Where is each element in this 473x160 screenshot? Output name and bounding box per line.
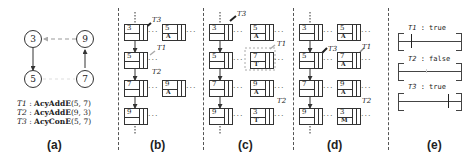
ellipsis: ··· xyxy=(323,27,334,36)
panel-label-d: (d) xyxy=(327,138,342,152)
vertex-cell: 3 xyxy=(124,24,148,41)
ellipsis: ··· xyxy=(323,111,334,120)
ellipsis: ··· xyxy=(323,55,334,64)
interval-t3 xyxy=(398,93,462,109)
vertex-cell: 5 xyxy=(124,52,148,69)
thread-label-t1: T1 xyxy=(157,44,166,52)
legend-line-t2: T2 : AcyAddE(9, 3) xyxy=(17,108,91,117)
graph-node-3: 3 xyxy=(24,30,42,48)
legend-line-t1: T1 : AcyAddE(5, 7) xyxy=(17,99,91,108)
legend-args: (9, 3) xyxy=(71,108,91,117)
vertex-cell: 9 xyxy=(299,108,323,125)
ellipsis: ··· xyxy=(233,111,244,120)
legend-sep: : xyxy=(29,117,32,126)
panel-label-a: (a) xyxy=(47,138,62,152)
graph-node-9: 9 xyxy=(76,30,94,48)
vertex-cell: 9 xyxy=(209,108,233,125)
ellipsis: ··· xyxy=(148,111,159,120)
ellipsis: ··· xyxy=(361,55,372,64)
graph-node-7: 7 xyxy=(76,70,94,88)
edge-cell: 7A xyxy=(337,52,361,69)
legend-op: AcyConE xyxy=(34,117,71,126)
interval-t2 xyxy=(398,63,462,79)
ellipsis: ··· xyxy=(323,83,334,92)
ellipsis: ··· xyxy=(274,27,285,36)
thread-label-t1: T1 xyxy=(362,43,371,51)
legend-line-t3: T3 : AcyConE(5, 7) xyxy=(17,117,91,126)
edge-cell: 5A xyxy=(337,24,361,41)
legend-sep: : xyxy=(29,99,32,108)
legend-op: AcyAddE xyxy=(34,99,71,108)
ellipsis: ··· xyxy=(233,27,244,36)
legend-args: (5, 7) xyxy=(71,99,91,108)
panel-label-e: (e) xyxy=(427,138,442,152)
ellipsis: ··· xyxy=(148,55,159,64)
edge-cell: 7T xyxy=(250,52,274,69)
ellipsis: ··· xyxy=(361,83,372,92)
ellipsis: ··· xyxy=(148,83,159,92)
edge-cell: 9A xyxy=(250,80,274,97)
ellipsis: ··· xyxy=(274,83,285,92)
thread-label-t2: T2 xyxy=(152,68,161,76)
panel-label-c: (c) xyxy=(238,138,253,152)
ellipsis: ··· xyxy=(233,83,244,92)
edge-cell: 5A xyxy=(162,24,186,41)
vertex-cell: 7 xyxy=(209,80,233,97)
legend-thread: T3 xyxy=(17,117,27,126)
edge-cell: 3T xyxy=(250,108,274,125)
legend-thread: T1 xyxy=(17,99,27,108)
legend-sep: : xyxy=(29,108,32,117)
interval-label-t2: T2 : false xyxy=(408,55,450,63)
legend-op: AcyAddE xyxy=(34,108,71,117)
ellipsis: ··· xyxy=(274,111,285,120)
vertex-cell: 7 xyxy=(124,80,148,97)
thread-label-t2: T2 xyxy=(362,97,371,105)
interval-label-t1: T1 : true xyxy=(408,24,446,32)
edge-cell: 5A xyxy=(250,24,274,41)
vertex-cell: 7 xyxy=(299,80,323,97)
ellipsis: ··· xyxy=(274,55,285,64)
interval-label-t3: T3 : true xyxy=(408,83,446,91)
thread-label-t3: T3 xyxy=(237,10,246,18)
panel-label-b: (b) xyxy=(150,138,165,152)
ellipsis: ··· xyxy=(361,111,372,120)
thread-label-t3: T3 xyxy=(328,45,337,53)
vertex-cell: 9 xyxy=(124,108,148,125)
edge-cell: 3M xyxy=(337,108,361,125)
separator xyxy=(388,8,389,150)
legend-thread: T2 xyxy=(17,108,27,117)
legend-args: (5, 7) xyxy=(71,117,91,126)
edge-cell: 9A xyxy=(337,80,361,97)
ellipsis: ··· xyxy=(361,27,372,36)
edge-cell: 9A xyxy=(162,80,186,97)
graph-node-5: 5 xyxy=(24,70,42,88)
ellipsis: ··· xyxy=(233,55,244,64)
vertex-cell: 5 xyxy=(209,52,233,69)
vertex-cell: 3 xyxy=(209,24,233,41)
interval-t1 xyxy=(398,33,462,49)
vertex-cell: 5 xyxy=(299,52,323,69)
thread-label-t3: T3 xyxy=(152,16,161,24)
vertex-cell: 3 xyxy=(299,24,323,41)
ellipsis: ··· xyxy=(148,27,159,36)
